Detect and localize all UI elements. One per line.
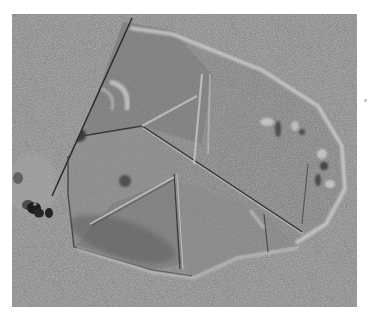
edge-artifact	[364, 99, 367, 102]
microscopy-image	[12, 14, 357, 307]
flake-micrograph	[12, 14, 357, 307]
